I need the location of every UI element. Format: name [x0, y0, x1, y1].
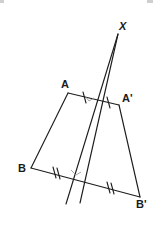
label-A: A — [61, 78, 69, 90]
geometry-figure: X A A' B B' — [0, 0, 160, 230]
segment-A-Aprime — [68, 93, 119, 105]
scan-artifact-right — [147, 0, 153, 3]
geometry-canvas: X A A' B B' — [0, 0, 160, 230]
label-A-prime: A' — [122, 92, 133, 104]
label-X: X — [118, 20, 127, 32]
segment-Aprime-Bprime — [119, 105, 140, 197]
label-B-prime: B' — [136, 198, 147, 210]
ray-bisector-AAprime — [66, 34, 118, 204]
ray-bisector-BBprime — [80, 34, 118, 203]
label-B: B — [18, 162, 26, 174]
segment-B-Bprime — [31, 168, 140, 197]
scan-artifact-left — [0, 0, 4, 3]
segment-A-B — [31, 93, 68, 168]
tick-B-to-mid — [53, 167, 60, 179]
